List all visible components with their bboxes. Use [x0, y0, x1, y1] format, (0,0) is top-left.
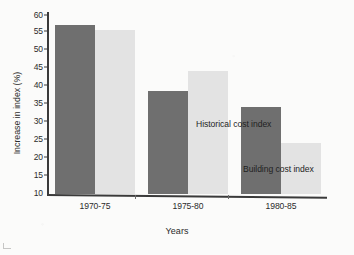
x-axis-title: Years [0, 226, 354, 236]
x-axis-line [47, 194, 327, 198]
y-tick-label: 10 [34, 188, 43, 198]
y-tick-label: 55 [34, 26, 43, 36]
x-tick-label-1980-85: 1980-85 [266, 201, 297, 211]
y-axis-title: Increase in index (%) [12, 53, 22, 173]
bar-historical-1975-80 [148, 91, 188, 194]
bar-building-1975-80 [188, 71, 228, 194]
y-tick-label: 20 [34, 152, 43, 162]
annotation-historical-cost-index: Historical cost index [196, 119, 271, 129]
x-tick-label-1975-80: 1975-80 [173, 201, 204, 211]
y-tick-label: 35 [34, 98, 43, 108]
y-tick-label: 60 [34, 10, 43, 20]
y-tick-label: 15 [34, 170, 43, 180]
x-tick-mark [135, 195, 136, 199]
y-tick-label: 50 [34, 44, 43, 54]
chart-figure: 60 55 50 45 40 35 30 25 20 15 10 1970-75… [0, 0, 354, 255]
annotation-building-cost-index: Building cost index [243, 164, 314, 174]
bar-historical-1970-75 [55, 25, 95, 194]
y-tick-label: 40 [34, 80, 43, 90]
scan-corner-mark [3, 243, 11, 249]
bar-building-1970-75 [95, 30, 135, 194]
x-tick-mark [228, 195, 229, 199]
y-tick-label: 25 [34, 134, 43, 144]
x-tick-label-1970-75: 1970-75 [80, 201, 111, 211]
y-tick-label: 30 [34, 116, 43, 126]
y-tick-label: 45 [34, 62, 43, 72]
